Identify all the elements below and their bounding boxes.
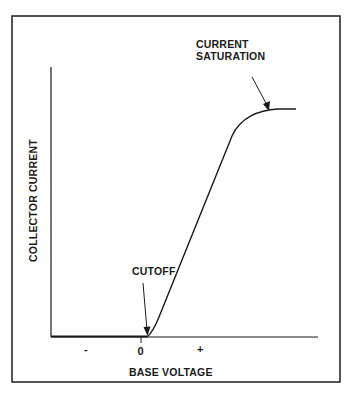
transfer-curve-diagram: CUTOFF CURRENT SATURATION - 0 + BASE VOL… [0, 0, 350, 393]
saturation-arrowhead-icon [263, 101, 270, 111]
diagram-frame [12, 16, 340, 382]
saturation-label-line2: SATURATION [196, 50, 265, 62]
x-tick-positive: + [197, 343, 203, 355]
saturation-label-line1: CURRENT [196, 38, 249, 50]
cutoff-label: CUTOFF [132, 265, 176, 277]
saturation-arrow-line [252, 77, 267, 105]
cutoff-arrow-line [143, 283, 147, 330]
x-tick-negative: - [84, 343, 88, 355]
x-tick-zero: 0 [138, 345, 144, 357]
transfer-curve [147, 109, 296, 337]
x-axis-title: BASE VOLTAGE [129, 366, 213, 378]
y-axis-title: COLLECTOR CURRENT [27, 139, 39, 262]
